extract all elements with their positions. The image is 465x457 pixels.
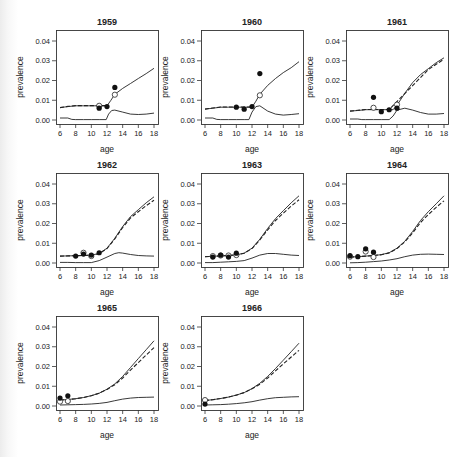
- y-tick-label: 0.02: [325, 76, 340, 85]
- plot-frame: [57, 317, 159, 411]
- open-point-marker: [371, 254, 376, 259]
- x-tick-label: 14: [408, 272, 416, 281]
- filled-point-marker: [242, 107, 247, 112]
- filled-point-marker: [249, 104, 254, 109]
- plot-frame: [202, 174, 304, 268]
- filled-point-marker: [355, 254, 360, 259]
- y-axis-label: prevalence: [160, 199, 170, 241]
- x-tick-label: 8: [219, 415, 223, 424]
- filled-point-marker: [234, 251, 239, 256]
- y-tick-label: 0.04: [180, 37, 195, 46]
- y-tick-label: 0.04: [180, 323, 195, 332]
- x-tick-label: 14: [263, 415, 271, 424]
- x-tick-label: 14: [118, 272, 126, 281]
- solid-model-line: [205, 397, 299, 405]
- x-tick-label: 8: [74, 272, 78, 281]
- plot-frame: [57, 31, 159, 125]
- y-tick-label: 0.03: [35, 56, 50, 65]
- x-tick-label: 6: [348, 272, 352, 281]
- x-tick-label: 8: [74, 415, 78, 424]
- y-tick-label: 0.01: [35, 239, 50, 248]
- filled-point-marker: [210, 254, 215, 259]
- y-tick-label: 0.01: [325, 239, 340, 248]
- y-tick-label: 0.00: [180, 402, 195, 411]
- y-tick-label: 0.03: [35, 199, 50, 208]
- x-tick-label: 18: [150, 272, 158, 281]
- y-tick-label: 0.01: [35, 96, 50, 105]
- y-tick-label: 0.00: [180, 259, 195, 268]
- filled-point-marker: [371, 95, 376, 100]
- x-tick-label: 10: [232, 129, 240, 138]
- x-tick-label: 12: [103, 129, 111, 138]
- x-tick-label: 10: [232, 272, 240, 281]
- open-point-marker: [65, 398, 70, 403]
- filled-point-marker: [73, 253, 78, 258]
- panel-1961: 19610.000.010.020.030.04prevalence681012…: [305, 17, 449, 154]
- x-axis-label: age: [390, 144, 404, 154]
- x-tick-label: 10: [87, 415, 95, 424]
- x-tick-label: 12: [248, 129, 256, 138]
- filled-point-marker: [112, 85, 117, 90]
- solid-model-line: [60, 110, 154, 120]
- panel-1966: 19660.000.010.020.030.04prevalence681012…: [160, 303, 304, 440]
- x-tick-label: 18: [150, 415, 158, 424]
- x-tick-label: 6: [203, 129, 207, 138]
- solid-model-line: [60, 68, 154, 107]
- dashed-model-line: [205, 200, 299, 257]
- y-tick-label: 0.04: [180, 180, 195, 189]
- filled-point-marker: [97, 106, 102, 111]
- filled-point-marker: [347, 253, 352, 258]
- x-tick-label: 16: [134, 272, 142, 281]
- x-tick-label: 12: [393, 272, 401, 281]
- plot-frame: [202, 31, 304, 125]
- filled-point-marker: [104, 104, 109, 109]
- y-tick-label: 0.03: [35, 342, 50, 351]
- x-tick-label: 16: [279, 129, 287, 138]
- x-tick-label: 16: [134, 129, 142, 138]
- solid-model-line: [60, 397, 154, 405]
- y-tick-label: 0.00: [325, 116, 340, 125]
- solid-model-line: [205, 196, 299, 257]
- y-tick-label: 0.02: [180, 362, 195, 371]
- y-tick-label: 0.01: [35, 382, 50, 391]
- filled-point-marker: [65, 393, 70, 398]
- x-tick-label: 14: [118, 415, 126, 424]
- x-tick-label: 10: [377, 129, 385, 138]
- x-tick-label: 8: [364, 272, 368, 281]
- y-tick-label: 0.00: [35, 402, 50, 411]
- x-tick-label: 16: [424, 272, 432, 281]
- x-tick-label: 12: [103, 272, 111, 281]
- x-tick-label: 10: [377, 272, 385, 281]
- x-tick-label: 12: [248, 272, 256, 281]
- y-tick-label: 0.02: [35, 76, 50, 85]
- panel-title: 1965: [97, 303, 117, 313]
- y-tick-label: 0.01: [180, 96, 195, 105]
- solid-model-line: [350, 254, 444, 263]
- x-tick-label: 10: [87, 129, 95, 138]
- y-axis-label: prevalence: [160, 56, 170, 98]
- x-tick-label: 12: [248, 415, 256, 424]
- x-axis-label: age: [245, 430, 259, 440]
- y-tick-label: 0.00: [35, 116, 50, 125]
- y-tick-label: 0.00: [180, 116, 195, 125]
- panel-1959: 19590.000.010.020.030.04prevalence681012…: [15, 17, 159, 154]
- filled-point-marker: [81, 252, 86, 257]
- y-tick-label: 0.04: [35, 323, 50, 332]
- y-tick-label: 0.01: [180, 239, 195, 248]
- y-axis-label: prevalence: [160, 342, 170, 384]
- prevalence-by-age-figure: 19590.000.010.020.030.04prevalence681012…: [0, 0, 465, 457]
- panel-title: 1962: [97, 160, 117, 170]
- x-tick-label: 18: [295, 272, 303, 281]
- x-tick-label: 14: [118, 129, 126, 138]
- x-tick-label: 8: [364, 129, 368, 138]
- y-tick-label: 0.02: [35, 219, 50, 228]
- x-axis-label: age: [245, 144, 259, 154]
- filled-point-marker: [97, 250, 102, 255]
- y-tick-label: 0.00: [35, 259, 50, 268]
- x-tick-label: 8: [74, 129, 78, 138]
- x-axis-label: age: [100, 287, 114, 297]
- x-tick-label: 18: [440, 272, 448, 281]
- x-tick-label: 6: [348, 129, 352, 138]
- filled-point-marker: [234, 105, 239, 110]
- panel-title: 1960: [242, 17, 262, 27]
